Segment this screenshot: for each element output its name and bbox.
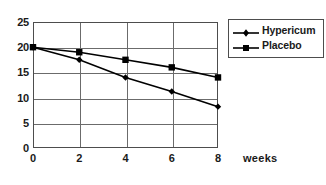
- x-tick-label: 0: [21, 153, 45, 164]
- data-point-marker: [122, 74, 128, 80]
- data-point-marker: [169, 88, 175, 94]
- x-tick-label: 6: [160, 153, 184, 164]
- diamond-marker-icon: [233, 25, 259, 37]
- x-tick-label: 2: [67, 153, 91, 164]
- data-point-marker: [122, 57, 128, 63]
- chart-legend: Hypericum Placebo: [228, 19, 324, 58]
- legend-entry-placebo[interactable]: Placebo: [233, 38, 319, 53]
- data-point-marker: [76, 49, 82, 55]
- data-point-marker: [215, 74, 221, 80]
- x-tick-label: 4: [114, 153, 138, 164]
- line-chart-figure: 25 20 15 10 5 0 0 2 4 6 8 weeks: [0, 0, 326, 185]
- legend-label: Hypericum: [262, 25, 315, 36]
- data-point-marker: [76, 57, 82, 63]
- legend-entry-hypericum[interactable]: Hypericum: [233, 23, 319, 38]
- data-point-marker: [169, 64, 175, 70]
- square-marker-icon: [233, 40, 259, 52]
- x-axis-title: weeks: [243, 152, 278, 164]
- legend-label: Placebo: [262, 40, 302, 51]
- series-hypericum: [30, 44, 221, 110]
- data-point-marker: [215, 103, 221, 109]
- x-tick-label: 8: [206, 153, 230, 164]
- data-point-marker: [30, 44, 36, 50]
